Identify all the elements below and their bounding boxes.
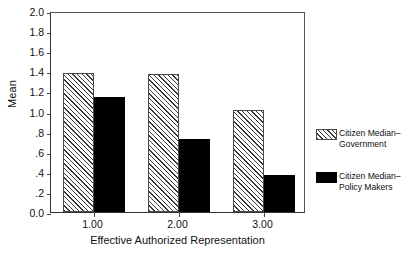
bar-chart-figure: Mean 0.0.2.4.6.81.01.21.41.61.82.0 1.002… — [0, 0, 411, 258]
bar — [179, 139, 210, 212]
x-axis-tick-label: 2.00 — [148, 218, 208, 230]
y-axis-tick-mark — [47, 214, 51, 215]
legend-swatch-icon — [316, 129, 337, 140]
y-axis-tick-label: 1.2 — [16, 86, 44, 98]
bar — [233, 110, 264, 213]
y-axis-tick-label: 1.0 — [16, 107, 44, 119]
y-axis-tick-label: .8 — [16, 127, 44, 139]
y-axis-tick-mark — [47, 33, 51, 34]
y-axis-tick-mark — [47, 134, 51, 135]
y-axis-tick-mark — [47, 194, 51, 195]
y-axis-tick-label: .2 — [16, 187, 44, 199]
y-axis-tick-mark — [47, 13, 51, 14]
bar — [264, 175, 295, 212]
y-axis-tick-label: 1.6 — [16, 46, 44, 58]
bar — [148, 74, 179, 212]
y-axis-tick-labels: 0.0.2.4.6.81.01.21.41.61.82.0 — [16, 12, 44, 213]
y-axis-tick-label: 0.0 — [16, 207, 44, 219]
legend-entry[interactable]: Citizen Median–Policy Makers — [316, 171, 411, 192]
plot-inner — [51, 13, 304, 212]
x-axis-tick-mark — [94, 212, 95, 217]
legend-entry[interactable]: Citizen Median–Government — [316, 128, 411, 149]
legend-label: Citizen Median–Government — [339, 128, 401, 149]
bar — [94, 97, 125, 212]
y-axis-tick-mark — [47, 93, 51, 94]
y-axis-tick-mark — [47, 114, 51, 115]
x-axis-tick-label: 3.00 — [233, 218, 293, 230]
y-axis-tick-label: 1.4 — [16, 66, 44, 78]
bar — [63, 73, 94, 212]
y-axis-tick-mark — [47, 73, 51, 74]
y-axis-tick-label: 1.8 — [16, 26, 44, 38]
x-axis-tick-labels: 1.002.003.00 — [50, 218, 305, 232]
y-axis-tick-label: .4 — [16, 167, 44, 179]
y-axis-tick-label: 2.0 — [16, 6, 44, 18]
y-axis-tick-mark — [47, 53, 51, 54]
x-axis-tick-label: 1.00 — [63, 218, 123, 230]
legend-swatch-icon — [316, 172, 337, 183]
plot-area — [50, 12, 305, 213]
x-axis-title: Effective Authorized Representation — [50, 234, 305, 246]
y-axis-tick-mark — [47, 154, 51, 155]
y-axis-tick-mark — [47, 174, 51, 175]
legend-label: Citizen Median–Policy Makers — [339, 171, 401, 192]
x-axis-tick-mark — [264, 212, 265, 217]
y-axis-tick-label: .6 — [16, 147, 44, 159]
x-axis-tick-mark — [179, 212, 180, 217]
legend: Citizen Median–GovernmentCitizen Median–… — [316, 128, 411, 214]
